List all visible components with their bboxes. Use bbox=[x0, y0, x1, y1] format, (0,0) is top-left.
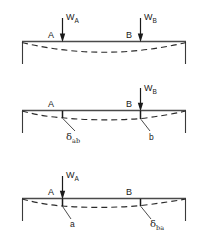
deflection-curve bbox=[22, 199, 186, 207]
load-label-wa: WA bbox=[66, 171, 79, 182]
point-label-b: B bbox=[126, 31, 132, 40]
deflection-label-a: a bbox=[70, 220, 75, 229]
leader-line-a bbox=[63, 207, 71, 219]
load-label-wb: WB bbox=[144, 13, 157, 24]
deflection-label-b: b bbox=[149, 133, 154, 142]
leader-line-delta-ab bbox=[63, 119, 75, 132]
load-label-wa-subscript: A bbox=[75, 17, 79, 24]
load-label-wb-symbol: W bbox=[144, 12, 153, 22]
panel-3-drawing bbox=[0, 168, 208, 252]
load-label-wa-symbol: W bbox=[66, 12, 75, 22]
load-label-wa: WA bbox=[66, 13, 79, 24]
point-label-a: A bbox=[48, 31, 54, 40]
point-label-a: A bbox=[48, 100, 54, 109]
load-label-wb-subscript: B bbox=[153, 17, 157, 24]
deflection-curve bbox=[22, 111, 186, 120]
deflection-label-delta-ba: δba bbox=[150, 219, 164, 232]
leader-line-b bbox=[141, 119, 150, 131]
deflection-label-delta-ba-subscript: ba bbox=[156, 224, 164, 232]
panel-load-at-b: A B WB δab b bbox=[0, 84, 208, 168]
deflection-label-delta-ab: δab bbox=[66, 132, 80, 145]
point-label-a: A bbox=[48, 188, 54, 197]
beam-deflection-figure: A B WA WB A B WB δab bbox=[0, 0, 208, 252]
panel-1-drawing bbox=[0, 0, 208, 84]
panel-both-loads: A B WA WB bbox=[0, 0, 208, 84]
load-label-wb: WB bbox=[144, 84, 157, 95]
panel-load-at-a: A B WA a δba bbox=[0, 168, 208, 252]
load-label-wa-subscript: A bbox=[75, 175, 79, 182]
panel-2-drawing bbox=[0, 84, 208, 168]
point-label-b: B bbox=[126, 188, 132, 197]
deflection-curve bbox=[22, 43, 186, 53]
point-label-b: B bbox=[126, 100, 132, 109]
load-label-wb-symbol: W bbox=[144, 83, 153, 93]
load-label-wa-symbol: W bbox=[66, 170, 75, 180]
deflection-label-delta-ab-subscript: ab bbox=[72, 137, 80, 145]
load-label-wb-subscript: B bbox=[153, 88, 157, 95]
